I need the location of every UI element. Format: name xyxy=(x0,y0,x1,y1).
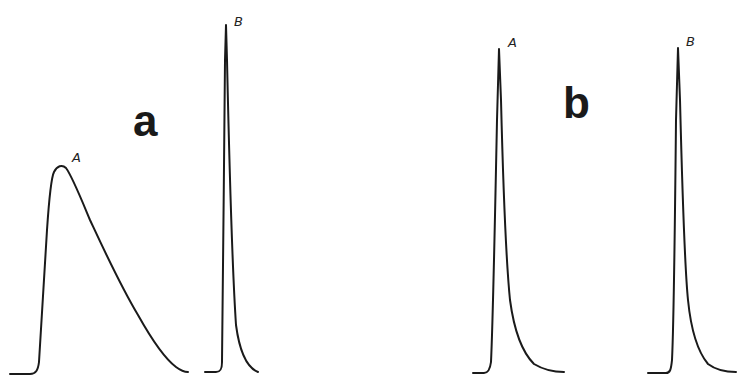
panel-b-peak-a-trace xyxy=(473,49,564,373)
panel-b-label: b xyxy=(563,78,590,127)
chromatogram-figure: A B a A B b xyxy=(0,0,746,377)
panel-b-peak-a-label: A xyxy=(507,35,517,50)
panel-a-peak-a-label: A xyxy=(71,150,81,165)
panel-a: A B a xyxy=(10,14,258,374)
panel-a-label: a xyxy=(133,96,158,145)
panel-b-peak-b-trace xyxy=(648,48,736,373)
panel-b-peak-b-label: B xyxy=(686,34,695,49)
panel-a-peak-a-trace xyxy=(10,166,188,374)
panel-a-peak-b-label: B xyxy=(234,14,243,29)
panel-b: A B b xyxy=(473,34,736,373)
panel-a-peak-b-trace xyxy=(205,25,258,372)
